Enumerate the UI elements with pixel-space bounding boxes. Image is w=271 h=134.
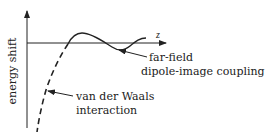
far-field-label-line2: dipole-image coupling [141, 65, 265, 78]
vdw-label-line1: van der Waals [75, 90, 155, 103]
vdw-label-line2: interaction [76, 104, 137, 117]
y-axis-label: energy shift [6, 37, 19, 104]
van-der-waals-curve [37, 44, 68, 132]
x-axis-label: z [155, 29, 160, 40]
far-field-curve [68, 33, 146, 50]
energy-shift-diagram: energy shift z far-field dipole-image co… [0, 0, 271, 134]
far-field-leader [119, 50, 147, 57]
vdw-leader [48, 91, 73, 96]
far-field-label-line1: far-field [149, 51, 193, 64]
